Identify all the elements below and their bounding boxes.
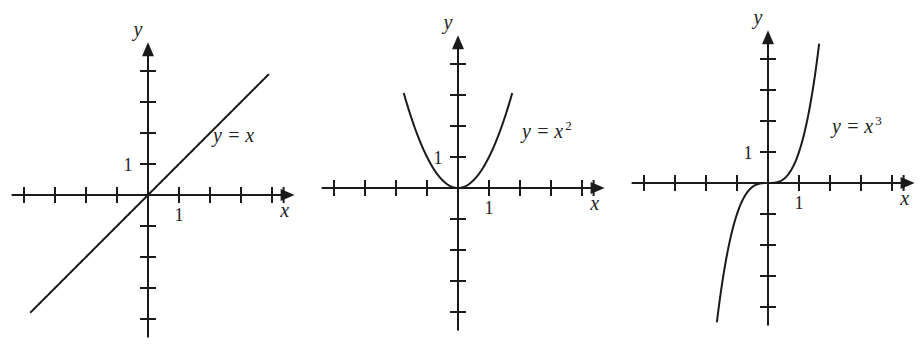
- y-axis-label: y: [442, 11, 453, 34]
- x-axis-label: x: [589, 192, 599, 214]
- y-axis-arrow-icon: [452, 35, 464, 49]
- x-tick-label: 1: [175, 205, 184, 225]
- y-tick-label: 1: [434, 148, 443, 168]
- y-tick-label: 1: [744, 143, 753, 163]
- function-label: y = x3: [830, 113, 882, 138]
- function-graphs: yx11y = x yx11y = x2 yx11y = x3: [0, 0, 924, 361]
- y-axis-label: y: [132, 18, 143, 41]
- function-label: y = x: [211, 124, 254, 147]
- y-axis-label: y: [752, 6, 763, 29]
- graph-linear: yx11y = x: [12, 18, 295, 337]
- x-axis-label: x: [899, 187, 909, 209]
- y-axis-arrow-icon: [762, 30, 774, 44]
- function-label: y = x2: [520, 118, 572, 143]
- y-axis-arrow-icon: [142, 42, 154, 56]
- y-tick-label: 1: [124, 155, 133, 175]
- x-tick-label: 1: [485, 198, 494, 218]
- x-tick-label: 1: [795, 193, 804, 213]
- function-curve: [30, 74, 269, 313]
- graph-cubic: yx11y = x3: [632, 6, 915, 325]
- graph-quadratic: yx11y = x2: [322, 11, 605, 330]
- x-axis-label: x: [279, 199, 289, 221]
